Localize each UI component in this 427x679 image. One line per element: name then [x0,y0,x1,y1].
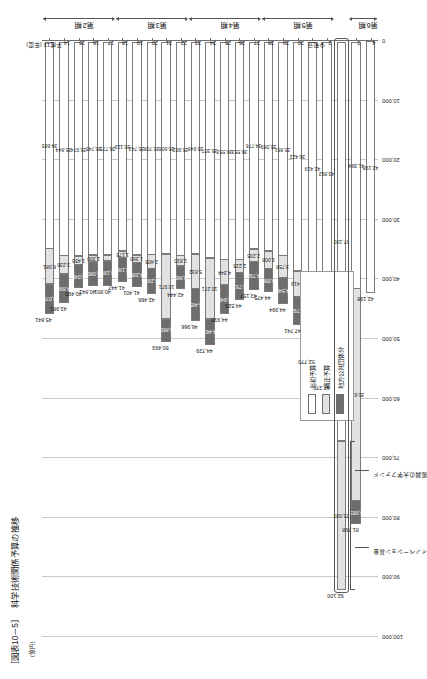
figure-page: ［図表10－5］科学技術関係予算の推移 (億円) 5,0706,08134,68… [0,0,427,679]
bar-segment-value: 4,088 [262,278,275,283]
gridline [42,457,378,458]
figure-title: ［図表10－5］科学技術関係予算の推移 [8,517,20,669]
bar-segment: 35,974 [74,42,83,256]
bar-total-value: 42,444 [167,292,184,297]
legend-item-supplement: 補正予算 [319,278,333,414]
bar-total-value: 52,770 [298,359,315,364]
bar-segment-value: 36,553 [217,148,233,153]
annotation-leader-line [355,470,369,471]
bar-segment: 35,745 [88,42,97,255]
bar-segment: 4,945 [220,285,229,314]
category-axis-label: 27 [254,40,260,46]
category-axis-label: 24 [210,40,216,46]
bar-segment: 35,902 [176,42,185,256]
category-axis-label: 21 [166,40,172,46]
category-axis-label: 14 [64,40,70,46]
bar-segment-value: 1,820 [174,258,187,263]
bar-segment-value: 4,751 [233,284,246,289]
category-axis-label: 15 [78,40,84,46]
bar-segment-value: 35,974 [71,147,87,152]
category-axis-label: 30 [298,40,304,46]
period-bracket [116,18,187,19]
bar-segment: 4,899 [59,274,68,303]
rotated-figure-canvas: ［図表10－5］科学技術関係予算の推移 (億円) 5,0706,08134,68… [0,0,427,679]
bar-segment: 1,820 [176,255,185,266]
bar-segment: 10,271 [205,258,214,319]
bar-segment-value: 3,008 [262,257,275,262]
chart-bar: 4,0883,00835,089 [264,41,273,292]
bar-segment: 4,792 [249,261,258,290]
bar-segment-value: 35,902 [173,146,189,151]
period-bracket [350,18,377,19]
chart-bar: 42,198 [366,41,375,293]
bar-segment: 36,553 [220,42,229,260]
chart-bar: 4,7512,22536,553 [235,41,244,300]
bar-total-value: 46,966 [182,324,199,329]
bar-segment-value: 3,865 [174,275,187,280]
bar-segment: 35,608 [161,42,170,254]
bar-segment: 2,405 [147,254,156,268]
bar-segment: 10,971 [161,254,170,319]
chart-bar: 4,5493,75835,881 [278,41,287,304]
bar-segment: 34,776 [249,42,258,249]
bar-segment: 4,297 [147,268,156,294]
bar-segment-value: 1,175 [116,252,129,257]
bar-segment: 35,742 [132,42,141,255]
fund-bar-highlight [334,38,349,593]
chart-bar: 3,8651,82035,902 [176,41,185,289]
bar-segment: 4,080 [88,262,97,286]
category-axis-label: 令和元 [307,41,325,49]
bar-segment: 38,422 [293,42,302,271]
bar-segment-value: 38,422 [290,154,306,159]
bar-segment-value: 5,485 [189,302,202,307]
bar-segment-value: 4,344 [218,270,231,275]
bar-total-value: 44,994 [269,307,286,312]
bar-segment: 1,175 [118,251,127,258]
bar-segment: 2,205 [249,249,258,262]
chart-bar: 4,0801,30035,745 [88,41,97,286]
bar-total-value: 42,466 [138,297,155,302]
bar-total-value: 47,741 [284,328,301,333]
bar-segment-value: 35,775 [100,146,116,151]
bar-segment-value: 35,708 [144,146,160,151]
x-axis-tick-label: 90,000 [382,574,400,580]
category-axis: 平成131415161718192021222324252627282930令和… [42,3,378,41]
bar-segment-value: 1,300 [87,256,100,261]
bar-segment-value: 34,776 [246,143,262,148]
bar-segment-value: 3,860 [160,328,173,333]
bar-total-value: 44,938 [211,317,228,322]
category-axis-label: 16 [93,40,99,46]
bar-segment: 35,708 [147,42,156,255]
legend-swatch-supplement-icon [322,394,331,414]
bar-segment-value: 1,380 [131,256,144,261]
bar-segment: 1,453 [74,256,83,265]
category-axis-label: 平成13 [44,41,62,49]
bar-segment: 41,394 [351,42,360,289]
bar-segment-value: 2,405 [145,259,158,264]
x-axis-tick-label: 60,000 [382,396,400,402]
bar-segment: 4,180 [118,257,127,282]
bar-total-value: 44,475 [255,295,272,300]
gridline [42,576,378,577]
chart-bar: 4,7922,20534,776 [249,41,258,290]
bar-segment: 3,865 [176,266,185,289]
annotation-leader-line [355,547,369,548]
category-axis-label: 28 [268,40,274,46]
period-label: 第6期 [359,21,378,32]
bar-segment: 3,860 [161,319,170,342]
category-axis-label: 19 [137,40,143,46]
bar-segment: 3,758 [278,255,287,277]
bar-segment: 35,881 [278,42,287,256]
axis-unit-label: (億円) [28,641,36,657]
bar-segment-value: 35,844 [56,146,72,151]
bar-segment: 43,892 [322,42,331,304]
period-bracket [262,18,333,19]
bar-segment: 4,045 [74,264,83,288]
bar-segment: 42,419 [308,42,317,295]
bar-segment: 35,844 [59,42,68,256]
x-axis-tick-label: 40,000 [382,276,400,282]
bar-segment-value: 10,271 [202,286,218,291]
category-axis-label: 26 [239,40,245,46]
bar-segment: 2,225 [235,259,244,272]
category-axis-label: 23 [195,40,201,46]
